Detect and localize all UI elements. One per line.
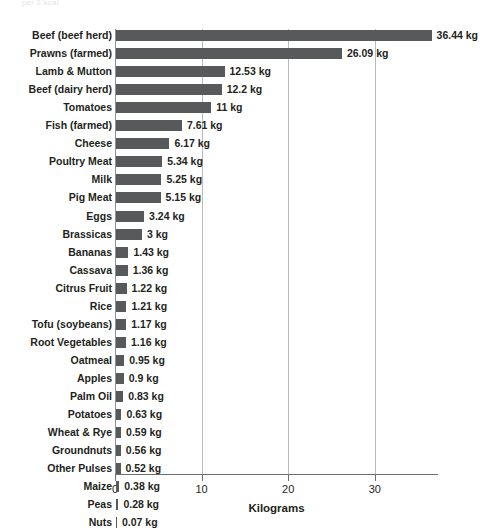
value-label: 0.07 kg [122,516,158,529]
value-label: 1.17 kg [131,318,167,331]
bar-row: Tofu (soybeans)1.17 kg [0,318,494,336]
category-label: Milk [92,173,112,186]
plot-area: Kilograms 0102030Beef (beef herd)36.44 k… [0,0,494,531]
bar-row: Prawns (farmed)26.09 kg [0,47,494,65]
bar [116,283,127,294]
bar-row: Rice1.21 kg [0,300,494,318]
bar [116,48,342,59]
value-label: 1.43 kg [133,246,169,259]
value-label: 1.16 kg [131,336,167,349]
category-label: Root Vegetables [30,336,112,349]
bar-row: Nuts0.07 kg [0,516,494,531]
bar [116,229,142,240]
category-label: Peas [87,498,112,511]
category-label: Brassicas [62,228,112,241]
category-label: Bananas [68,246,112,259]
category-label: Rice [90,300,112,313]
value-label: 36.44 kg [437,29,478,42]
bar [116,211,144,222]
value-label: 0.83 kg [128,390,164,403]
value-label: 0.63 kg [126,408,162,421]
category-label: Prawns (farmed) [30,47,112,60]
category-label: Cassava [69,264,112,277]
bar [116,120,182,131]
bar-row: Wheat & Rye0.59 kg [0,426,494,444]
bar [116,355,124,366]
value-label: 0.9 kg [129,372,159,385]
bar-row: Lamb & Mutton12.53 kg [0,65,494,83]
category-label: Other Pulses [47,462,112,475]
category-label: Oatmeal [71,354,112,367]
bar-row: Apples0.9 kg [0,372,494,390]
category-label: Eggs [86,210,112,223]
category-label: Tofu (soybeans) [32,318,112,331]
bar-row: Maize0.38 kg [0,480,494,498]
category-label: Potatoes [68,408,112,421]
value-label: 3.24 kg [149,210,185,223]
category-label: Apples [77,372,112,385]
value-label: 0.95 kg [129,354,165,367]
category-label: Palm Oil [70,390,112,403]
bar-row: Tomatoes11 kg [0,101,494,119]
bar-row: Eggs3.24 kg [0,210,494,228]
value-label: 5.34 kg [167,155,203,168]
value-label: 11 kg [216,101,242,114]
bar [116,463,121,474]
bar [116,138,169,149]
bar [116,30,432,41]
category-label: Maize [83,480,112,493]
bar-row: Groundnuts0.56 kg [0,444,494,462]
bar [116,409,121,420]
category-label: Pig Meat [69,191,112,204]
bar [116,319,126,330]
bar-row: Root Vegetables1.16 kg [0,336,494,354]
bar-row: Beef (dairy herd)12.2 kg [0,83,494,101]
value-label: 26.09 kg [347,47,388,60]
bar-row: Pig Meat5.15 kg [0,191,494,209]
bar [116,84,222,95]
bar-row: Milk5.25 kg [0,173,494,191]
bar-row: Fish (farmed)7.61 kg [0,119,494,137]
value-label: 0.59 kg [126,426,162,439]
bar [116,427,121,438]
bar [116,517,117,528]
category-label: Beef (beef herd) [32,29,112,42]
category-label: Beef (dairy herd) [29,83,112,96]
bar-row: Citrus Fruit1.22 kg [0,282,494,300]
value-label: 12.53 kg [230,65,271,78]
category-label: Citrus Fruit [55,282,112,295]
bar-row: Cheese6.17 kg [0,137,494,155]
category-label: Cheese [75,137,112,150]
bar-row: Oatmeal0.95 kg [0,354,494,372]
bar [116,265,128,276]
value-label: 0.28 kg [123,498,159,511]
bar-row: Peas0.28 kg [0,498,494,516]
value-label: 1.22 kg [132,282,168,295]
category-label: Nuts [89,516,112,529]
bar [116,481,119,492]
value-label: 5.15 kg [166,191,202,204]
bar [116,156,162,167]
category-label: Poultry Meat [49,155,112,168]
bar-row: Bananas1.43 kg [0,246,494,264]
category-label: Fish (farmed) [45,119,112,132]
value-label: 12.2 kg [227,83,263,96]
category-label: Wheat & Rye [48,426,112,439]
bar [116,373,124,384]
value-label: 0.56 kg [126,444,162,457]
category-label: Groundnuts [52,444,112,457]
bar [116,66,225,77]
bar [116,247,128,258]
bar [116,391,123,402]
value-label: 3 kg [147,228,168,241]
bar-row: Poultry Meat5.34 kg [0,155,494,173]
bar [116,301,126,312]
value-label: 0.38 kg [124,480,160,493]
bar [116,102,211,113]
bar [116,174,161,185]
value-label: 7.61 kg [187,119,223,132]
value-label: 1.36 kg [133,264,169,277]
category-label: Tomatoes [63,101,112,114]
bar-row: Beef (beef herd)36.44 kg [0,29,494,47]
bar [116,499,118,510]
